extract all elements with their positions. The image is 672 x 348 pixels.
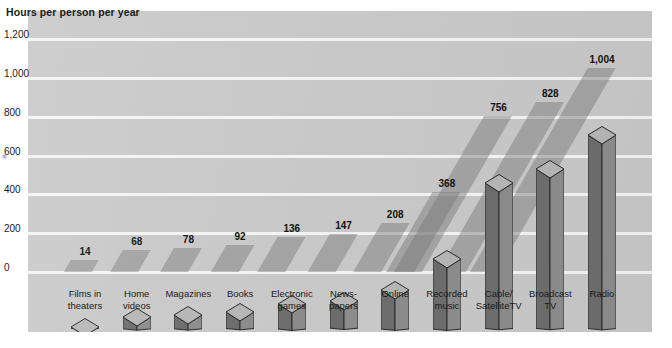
- category-label: Radio: [590, 288, 615, 300]
- bar-value-label: 147: [335, 220, 352, 231]
- category-label-line: Films in: [68, 288, 102, 300]
- category-label: News-papers: [329, 288, 358, 311]
- category-label-line: theaters: [68, 300, 102, 312]
- gridline: [28, 38, 652, 41]
- category-label-line: SatelliteTV: [476, 300, 522, 312]
- category-label: Homevideos: [123, 288, 150, 311]
- category-label-line: games: [271, 300, 313, 312]
- category-label-line: News-: [329, 288, 358, 300]
- category-label-line: videos: [123, 300, 150, 312]
- bar-value-label: 1,004: [589, 54, 614, 65]
- category-label-line: Cable/: [476, 288, 522, 300]
- category-label-line: Books: [227, 288, 253, 300]
- bar-value-label: 78: [183, 234, 194, 245]
- bar-value-label: 68: [131, 236, 142, 247]
- category-label-line: Broadcast: [529, 288, 572, 300]
- category-label-line: Electronic: [271, 288, 313, 300]
- chart-canvas: 146878921361472083687568281,004 Hours pe…: [0, 0, 672, 348]
- category-label: Cable/SatelliteTV: [476, 288, 522, 311]
- category-label-line: music: [426, 300, 467, 312]
- bar-value-label: 92: [235, 231, 246, 242]
- category-label: Electronicgames: [271, 288, 313, 311]
- y-tick-label: 800: [4, 106, 21, 117]
- bar-prism-shape: [123, 308, 151, 332]
- bar-prism-shape: [71, 318, 99, 332]
- chart-axis-title: Hours per person per year: [6, 6, 140, 18]
- category-label: Recordedmusic: [426, 288, 467, 311]
- category-label-line: Home: [123, 288, 150, 300]
- category-label-line: Online: [381, 288, 408, 300]
- bar-value-label: 14: [79, 246, 90, 257]
- y-tick-label: 600: [4, 145, 21, 156]
- bar-prism-shape: [174, 306, 202, 332]
- y-tick-label: 0: [4, 262, 10, 273]
- bar-prism-shape: [588, 126, 616, 332]
- y-tick-label: 1,200: [4, 29, 29, 40]
- category-label-line: papers: [329, 300, 358, 312]
- plot-area: 146878921361472083687568281,004: [28, 11, 652, 332]
- category-label-line: TV: [529, 300, 572, 312]
- bar-value-label: 828: [542, 88, 559, 99]
- category-label: BroadcastTV: [529, 288, 572, 311]
- category-label: Films intheaters: [68, 288, 102, 311]
- bar-value-label: 208: [387, 209, 404, 220]
- bar-value-label: 368: [439, 178, 456, 189]
- bar-value-label: 756: [490, 102, 507, 113]
- category-label: Magazines: [165, 288, 211, 300]
- y-tick-label: 200: [4, 223, 21, 234]
- category-label-line: Magazines: [165, 288, 211, 300]
- category-label-line: Recorded: [426, 288, 467, 300]
- y-tick-label: 1,000: [4, 67, 29, 78]
- category-label: Online: [381, 288, 408, 300]
- bar-value-label: 136: [283, 223, 300, 234]
- category-label: Books: [227, 288, 253, 300]
- y-tick-label: 400: [4, 184, 21, 195]
- bar-prism-shape: [226, 303, 254, 332]
- category-label-line: Radio: [590, 288, 615, 300]
